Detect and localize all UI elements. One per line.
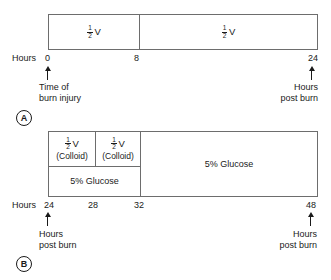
- half-volume-label: 1 2 V: [65, 137, 78, 151]
- fraction-one-half: 1 2: [111, 137, 117, 151]
- volume-unit: V: [229, 27, 235, 37]
- fraction-denominator: 2: [87, 32, 93, 40]
- glucose-label: 5% Glucose: [70, 176, 119, 186]
- colloid-sublabel: (Colloid): [102, 152, 134, 161]
- panel-b-timeline-bar: 1 2 V (Colloid) 1 2 V (Colloid) 5% Gluco…: [48, 131, 318, 197]
- panel-b-tick-32: 32: [134, 201, 144, 210]
- fraction-denominator: 2: [65, 143, 71, 151]
- fraction-denominator: 2: [222, 32, 228, 40]
- panel-a-tick-8: 8: [134, 54, 139, 63]
- fraction-one-half: 1 2: [65, 137, 71, 151]
- panel-b-right-caption-line1: Hours: [243, 229, 317, 240]
- panel-a-tick-24: 24: [308, 54, 318, 63]
- panel-b-right-caption-line2: post burn: [243, 240, 317, 251]
- panel-b-hours-axis-label: Hours: [12, 201, 36, 210]
- panel-b-bottom-segment: 5% Glucose: [49, 166, 140, 196]
- panel-a-tick-0: 0: [45, 54, 50, 63]
- panel-a-left-arrow-icon: [44, 66, 51, 80]
- fraction-one-half: 1 2: [222, 25, 228, 39]
- panel-b-left-caption-line2: post burn: [39, 240, 77, 251]
- panel-a-left-caption-line1: Time of: [39, 82, 81, 93]
- panel-b-right-arrow-icon: [307, 212, 314, 226]
- panel-a-left-caption-line2: burn injury: [39, 93, 81, 104]
- panel-b-top-segment-1: 1 2 V (Colloid): [95, 132, 140, 166]
- panel-b-tick-48: 48: [306, 201, 316, 210]
- fraction-denominator: 2: [111, 143, 117, 151]
- half-volume-label: 1 2 V: [222, 25, 235, 39]
- panel-b-letter: B: [16, 256, 32, 272]
- panel-b-tick-24: 24: [44, 201, 54, 210]
- panel-a-right-arrow-icon: [308, 66, 315, 80]
- panel-a-right-caption-line1: Hours: [244, 82, 318, 93]
- panel-b-top-segment-0: 1 2 V (Colloid): [49, 132, 95, 166]
- panel-b-left-caption: Hours post burn: [39, 229, 77, 252]
- panel-a-segment-1: 1 2 V: [139, 15, 317, 49]
- panel-a-segment-0: 1 2 V: [49, 15, 139, 49]
- volume-unit: V: [118, 139, 124, 149]
- panel-b-left-caption-line1: Hours: [39, 229, 77, 240]
- panel-a-left-caption: Time of burn injury: [39, 82, 81, 105]
- volume-unit: V: [72, 139, 78, 149]
- panel-a-timeline-bar: 1 2 V 1 2 V: [48, 14, 318, 50]
- panel-b-left-arrow-icon: [44, 212, 51, 226]
- half-volume-label: 1 2 V: [87, 25, 100, 39]
- panel-a-letter: A: [16, 110, 32, 126]
- panel-a-hours-axis-label: Hours: [12, 54, 36, 63]
- volume-unit: V: [94, 27, 100, 37]
- glucose-label: 5% Glucose: [205, 159, 254, 169]
- panel-b-right-segment: 5% Glucose: [140, 132, 317, 196]
- half-volume-label: 1 2 V: [111, 137, 124, 151]
- panel-a-right-caption: Hours post burn: [244, 82, 318, 105]
- colloid-sublabel: (Colloid): [56, 152, 88, 161]
- panel-a-right-caption-line2: post burn: [244, 93, 318, 104]
- panel-b-right-caption: Hours post burn: [243, 229, 317, 252]
- fraction-one-half: 1 2: [87, 25, 93, 39]
- panel-b-tick-28: 28: [88, 201, 98, 210]
